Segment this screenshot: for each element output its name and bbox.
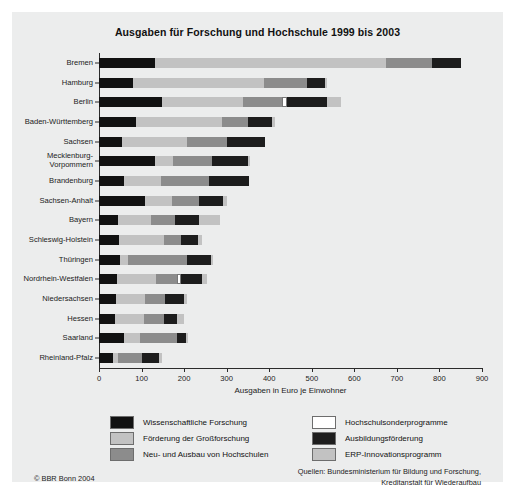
bar-segment: [386, 58, 432, 68]
legend-label: Hochschulsonderprogramme: [345, 418, 448, 427]
stacked-bar: [99, 156, 250, 166]
bar-segment: [99, 333, 124, 343]
x-axis-tick-label: 0: [97, 374, 101, 383]
chart-panel: Ausgaben für Forschung und Hochschule 19…: [12, 12, 503, 482]
plot-area: BremenHamburgBerlinBaden-WürttembergSach…: [99, 53, 482, 368]
x-axis-tick-label: 100: [135, 374, 148, 383]
x-axis-tick: [312, 368, 313, 372]
bar-segment: [187, 255, 210, 265]
x-axis-tick-label: 200: [178, 374, 191, 383]
bar-row: Hamburg: [99, 78, 482, 88]
legend-item: Hochschulsonderprogramme: [312, 416, 448, 429]
legend-item: Förderung der Großforschung: [110, 432, 312, 445]
bar-segment: [142, 353, 158, 363]
credit-text: © BBR Bonn 2004: [34, 474, 95, 483]
bar-row: Bremen: [99, 58, 482, 68]
bar-segment: [136, 117, 221, 127]
x-axis-tick: [269, 368, 270, 372]
bar-segment: [222, 117, 248, 127]
bar-segment: [187, 137, 228, 147]
stacked-bar: [99, 333, 188, 343]
legend-label: ERP-Innovationsprogramm: [345, 450, 441, 459]
bar-segment: [99, 117, 136, 127]
bar-segment: [202, 274, 207, 284]
y-axis-label: Thüringen: [59, 255, 93, 264]
sources-line-2: Kreditanstalt für Wiederaufbau: [298, 478, 481, 489]
y-axis-label: Nordrhein-Westfalen: [23, 275, 93, 284]
bar-segment: [327, 97, 341, 107]
bar-segment: [243, 97, 281, 107]
stacked-bar: [99, 117, 275, 127]
bar-segment: [99, 353, 113, 363]
stacked-bar: [99, 314, 184, 324]
stacked-bar: [99, 196, 227, 206]
bar-segment: [140, 333, 177, 343]
bar-segment: [120, 255, 128, 265]
legend-swatch: [312, 432, 336, 445]
bar-segment: [198, 235, 201, 245]
y-axis-label: Hamburg: [62, 78, 93, 87]
bar-segment: [124, 176, 161, 186]
y-axis-label: Bayern: [69, 216, 93, 225]
bar-segment: [165, 294, 185, 304]
bar-row: Mecklenburg-Vorpommern: [99, 156, 482, 166]
bar-row: Nordrhein-Westfalen: [99, 274, 482, 284]
bar-segment: [211, 255, 214, 265]
bar-segment: [128, 255, 188, 265]
chart-title: Ausgaben für Forschung und Hochschule 19…: [12, 26, 503, 38]
bar-row: Sachsen-Anhalt: [99, 196, 482, 206]
legend-item: Neu- und Ausbau von Hochschulen: [110, 448, 312, 461]
bar-segment: [155, 58, 386, 68]
x-axis-tick-label: 500: [305, 374, 318, 383]
legend-item: Wissenschaftliche Forschung: [110, 416, 312, 429]
bar-segment: [177, 314, 183, 324]
bar-segment: [99, 294, 116, 304]
y-axis-label: Saarland: [63, 334, 93, 343]
bar-row: Hessen: [99, 314, 482, 324]
bar-segment: [325, 78, 328, 88]
bar-segment: [248, 156, 251, 166]
bar-segment: [175, 215, 199, 225]
stacked-bar: [99, 353, 162, 363]
y-axis-label: Schleswig-Holstein: [29, 236, 93, 245]
bar-segment: [99, 255, 120, 265]
bar-segment: [99, 97, 162, 107]
x-axis-tick-label: 400: [263, 374, 276, 383]
bar-segment: [432, 58, 461, 68]
stacked-bar: [99, 235, 202, 245]
bar-segment: [133, 78, 264, 88]
bar-segment: [177, 333, 186, 343]
y-axis-label: Hessen: [67, 314, 93, 323]
bar-segment: [99, 156, 155, 166]
y-axis-label: Sachsen-Anhalt: [39, 196, 93, 205]
bar-segment: [212, 156, 248, 166]
x-axis-tick-label: 600: [348, 374, 361, 383]
bar-segment: [119, 235, 164, 245]
y-axis-label: Niedersachsen: [42, 295, 93, 304]
bar-segment: [227, 137, 264, 147]
legend-swatch: [312, 416, 336, 429]
bar-segment: [115, 314, 144, 324]
bar-row: Brandenburg: [99, 176, 482, 186]
bar-segment: [145, 294, 165, 304]
bar-row: Thüringen: [99, 255, 482, 265]
bar-segment: [181, 235, 198, 245]
y-axis-label: Berlin: [74, 98, 93, 107]
chart-page: Ausgaben für Forschung und Hochschule 19…: [0, 0, 515, 499]
bar-segment: [199, 215, 220, 225]
x-axis-line: [99, 368, 482, 369]
y-axis-label: Rheinland-Pfalz: [39, 354, 93, 363]
bar-segment: [99, 176, 124, 186]
bar-segment: [264, 78, 307, 88]
bar-row: Saarland: [99, 333, 482, 343]
bar-segment: [186, 333, 189, 343]
bar-segment: [99, 58, 155, 68]
bar-segment: [248, 117, 272, 127]
x-axis-label: Ausgaben in Euro je Einwohner: [99, 386, 482, 395]
legend-swatch: [110, 416, 134, 429]
x-axis-tick-label: 700: [391, 374, 404, 383]
bar-row: Berlin: [99, 97, 482, 107]
bar-segment: [116, 294, 145, 304]
bar-segment: [173, 156, 212, 166]
bar-segment: [144, 314, 164, 324]
